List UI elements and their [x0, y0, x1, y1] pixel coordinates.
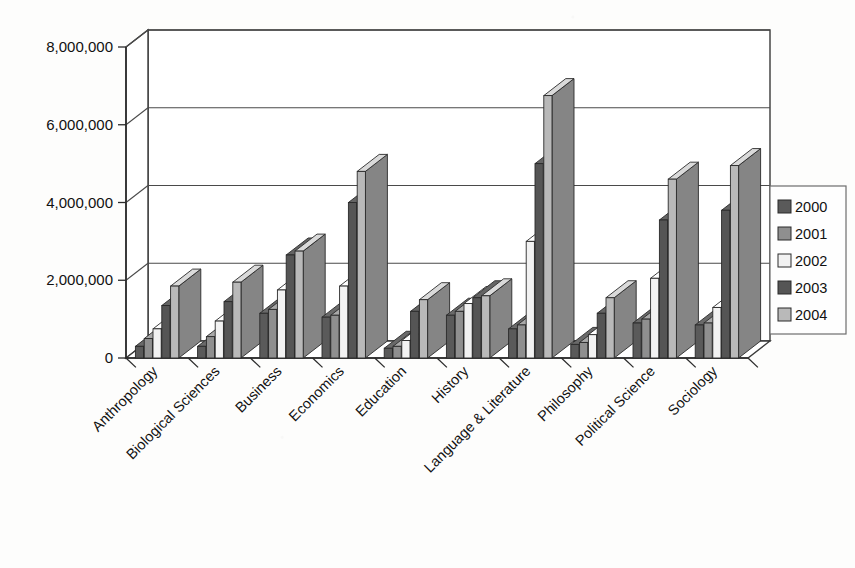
x-axis-label-economics: Economics [286, 363, 347, 424]
bar-front-face [597, 313, 605, 358]
bar-front-face [198, 346, 206, 358]
x-tick-10 [748, 358, 758, 367]
bar-front-face [704, 323, 712, 358]
bar-2004 [295, 234, 325, 358]
legend-label-2000: 2000 [795, 199, 827, 215]
bar-front-face [722, 210, 730, 358]
legend-item-2004[interactable]: 2004 [778, 307, 827, 323]
y-tick-label-2000000: 2,000,000 [46, 271, 113, 288]
x-tick-7 [561, 358, 571, 367]
x-tick-1 [188, 358, 198, 367]
bar-front-face [633, 323, 641, 358]
legend-swatch-2002 [778, 254, 791, 267]
bar-front-face [580, 342, 588, 358]
bar-2004 [544, 79, 574, 358]
x-axis-labels: AnthropologyBiological SciencesBusinessE… [89, 362, 721, 475]
bar-front-face [517, 325, 525, 358]
legend-item-2002[interactable]: 2002 [778, 253, 827, 269]
y-tick-label-0: 0 [105, 349, 113, 366]
bar-front-face [393, 346, 401, 358]
x-tick-3 [313, 358, 323, 367]
bar-2004 [668, 162, 698, 358]
bar-front-face [357, 171, 365, 358]
legend-item-2001[interactable]: 2001 [778, 226, 827, 242]
bar-front-face [269, 309, 277, 358]
bar-front-face [482, 296, 490, 358]
bar-front-face [473, 298, 481, 358]
bar-2004 [233, 265, 263, 358]
bar-front-face [464, 304, 472, 358]
x-axis-label-business: Business [232, 363, 285, 416]
bar-2004 [171, 269, 201, 358]
bar-front-face [713, 307, 721, 358]
legend-item-2000[interactable]: 2000 [778, 199, 827, 215]
bar-front-face [233, 282, 241, 358]
bar-front-face [215, 321, 223, 358]
bar-front-face [286, 255, 294, 358]
bar-front-face [419, 300, 427, 358]
bar-front-face [384, 348, 392, 358]
legend-swatch-2001 [778, 227, 791, 240]
bar-side-face [365, 154, 387, 358]
bar-front-face [526, 241, 534, 358]
chart-screenshot: 02,000,0004,000,0006,000,0008,000,000Ant… [0, 0, 855, 568]
bar-front-face [588, 335, 596, 358]
legend-swatch-2003 [778, 281, 791, 294]
x-axis-ticks [126, 358, 758, 367]
y-tick-label-8000000: 8,000,000 [46, 38, 113, 55]
bar-front-face [171, 286, 179, 358]
legend-label-2004: 2004 [795, 307, 827, 323]
legend-item-2003[interactable]: 2003 [778, 280, 827, 296]
legend-swatch-2004 [778, 308, 791, 321]
bar-front-face [651, 278, 659, 358]
x-tick-4 [375, 358, 385, 367]
bar-front-face [402, 341, 410, 358]
bar-front-face [571, 344, 579, 358]
x-tick-9 [686, 358, 696, 367]
bar-front-face [668, 179, 676, 358]
bar-front-face [411, 311, 419, 358]
bar-front-face [535, 164, 543, 358]
legend-label-2003: 2003 [795, 280, 827, 296]
x-axis-label-history: History [428, 362, 472, 406]
y-tick-label-4000000: 4,000,000 [46, 194, 113, 211]
x-tick-6 [499, 358, 509, 367]
x-tick-0 [126, 358, 136, 367]
bar-front-face [135, 346, 143, 358]
x-tick-5 [437, 358, 447, 367]
x-axis-label-philosophy: Philosophy [534, 362, 596, 424]
bar-front-face [277, 290, 285, 358]
bar-front-face [162, 306, 170, 358]
bar-front-face [322, 317, 330, 358]
bar-front-face [295, 251, 303, 358]
x-tick-8 [624, 358, 634, 367]
bar-front-face [730, 166, 738, 358]
x-axis-label-education: Education [352, 363, 409, 420]
bar-front-face [455, 311, 463, 358]
x-axis-label-language-literature: Language & Literature [421, 363, 534, 476]
bar-front-face [642, 319, 650, 358]
bar-side-face [739, 149, 761, 358]
bar-front-face [695, 325, 703, 358]
legend: 20002001200220032004 [770, 186, 846, 334]
legend-swatch-2000 [778, 200, 791, 213]
x-axis-label-sociology: Sociology [664, 362, 720, 418]
legend-label-2001: 2001 [795, 226, 827, 242]
y-tick-label-6000000: 6,000,000 [46, 116, 113, 133]
bar-front-face [331, 315, 339, 358]
bar-2004 [730, 149, 760, 358]
bar-chart: 02,000,0004,000,0006,000,0008,000,000Ant… [0, 0, 855, 568]
bar-front-face [446, 315, 454, 358]
bar-side-face [552, 79, 574, 358]
bar-front-face [348, 203, 356, 359]
bar-front-face [144, 339, 152, 358]
bar-front-face [544, 96, 552, 358]
bar-front-face [260, 313, 268, 358]
bar-front-face [659, 220, 667, 358]
bar-front-face [224, 302, 232, 358]
bar-front-face [509, 329, 517, 358]
bar-front-face [206, 337, 214, 358]
x-tick-2 [250, 358, 260, 367]
bar-2004 [357, 154, 387, 358]
bar-front-face [153, 329, 161, 358]
